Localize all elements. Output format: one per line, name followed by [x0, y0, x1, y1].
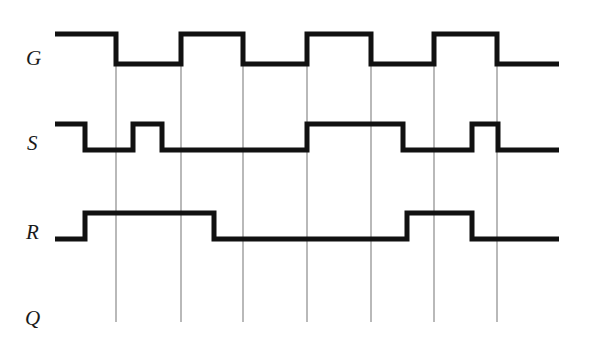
timing-diagram: GSRQ — [0, 0, 589, 348]
signal-label-r: R — [26, 222, 39, 243]
waveform-s — [55, 124, 559, 150]
gridlines-group — [116, 65, 497, 322]
waveform-g — [55, 34, 559, 64]
signal-label-q: Q — [25, 308, 40, 329]
signal-label-s: S — [27, 133, 38, 154]
signal-label-g: G — [26, 48, 41, 69]
timing-diagram-canvas — [0, 0, 589, 348]
